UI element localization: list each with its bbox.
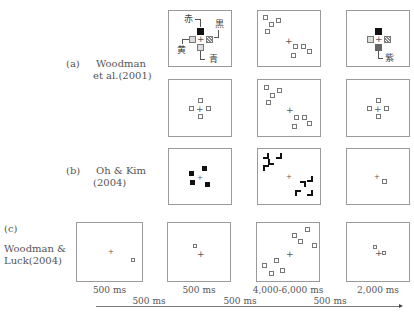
duration-interval-3: 500 ms — [305, 296, 355, 306]
frame-c3-search: + — [256, 222, 320, 282]
label-blue: 青 — [209, 55, 218, 64]
label-yellow: 黄 — [177, 46, 186, 55]
yellow-square — [189, 36, 196, 43]
duration-interval-1: 500 ms — [124, 296, 174, 306]
duration-interval-2: 500 ms — [215, 296, 265, 306]
frame-a6-test: + — [346, 79, 410, 137]
frame-c2-sample: + — [167, 222, 231, 282]
black-square — [206, 36, 213, 43]
fixation-cross: + — [285, 37, 293, 46]
fixation-cross: + — [375, 35, 383, 44]
fixation-cross: + — [197, 174, 203, 183]
fixation-cross: + — [286, 173, 292, 182]
row-a-author-2: et al.(2001) — [93, 70, 152, 82]
label-black: 黒 — [215, 20, 224, 29]
frame-a4-sample: + — [168, 79, 232, 137]
fixation-cross: + — [374, 105, 382, 114]
fixation-cross: + — [374, 173, 380, 182]
purple-square — [375, 44, 382, 51]
frame-a3-test: + 紫 — [346, 10, 410, 67]
frame-b1-sample: + — [168, 148, 232, 205]
fixation-cross: + — [197, 35, 205, 44]
frame-c1-cue: + — [76, 222, 143, 282]
fixation-cross: + — [108, 248, 114, 257]
row-a-author-1: Woodman — [96, 58, 146, 70]
label-purple: 紫 — [385, 54, 394, 63]
duration-frame-4: 2,000 ms — [346, 285, 410, 295]
row-c-author-2: Luck(2004) — [4, 255, 62, 267]
time-arrow-line — [96, 306, 400, 307]
duration-frame-1: 500 ms — [76, 285, 143, 295]
blue-square — [197, 44, 204, 51]
row-c-tag: (c) — [4, 223, 17, 235]
duration-frame-3: 4,000-6,000 ms — [248, 285, 328, 295]
row-c-author-1: Woodman & — [4, 243, 66, 255]
row-b-tag: (b) — [66, 165, 80, 177]
duration-frame-2: 500 ms — [167, 285, 231, 295]
row-b-author-1: Oh & Kim — [96, 165, 146, 177]
time-arrow-head-icon — [399, 304, 403, 308]
frame-a1-sample: 赤 黒 + 黄 青 — [168, 10, 232, 67]
row-b-author-2: (2004) — [93, 177, 126, 189]
label-red: 赤 — [184, 15, 193, 24]
frame-a5-delay: + — [257, 79, 321, 137]
fixation-cross: + — [196, 105, 204, 114]
fixation-cross: + — [286, 106, 294, 115]
fixation-cross: + — [286, 250, 294, 259]
frame-b2-delay: + — [257, 148, 321, 205]
frame-c4-test: + — [346, 222, 410, 282]
fixation-cross: + — [197, 250, 205, 259]
row-a-tag: (a) — [66, 58, 80, 70]
frame-a2-delay: + — [257, 10, 321, 67]
frame-b3-test: + — [346, 148, 410, 205]
